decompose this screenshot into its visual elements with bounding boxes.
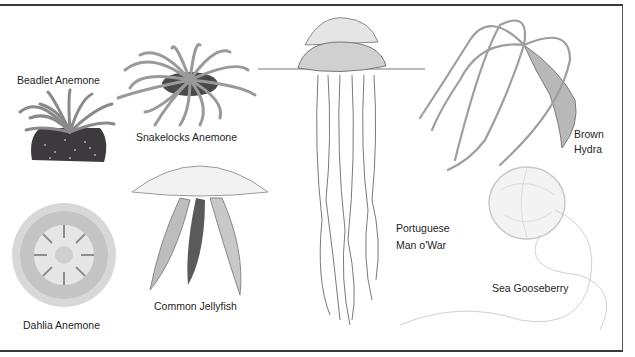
label-dahlia-anemone: Dahlia Anemone [23,318,100,332]
beadlet-anemone-illustration [20,90,114,162]
label-common-jellyfish: Common Jellyfish [154,299,237,313]
label-sea-gooseberry: Sea Gooseberry [492,281,568,295]
label-portuguese-man-o-war-line1: Portuguese [396,221,450,235]
label-brown-hydra-line1: Brown [574,127,604,141]
label-beadlet-anemone: Beadlet Anemone [17,73,100,87]
label-portuguese-man-o-war-line2: Man o'War [396,238,446,252]
label-snakelocks-anemone: Snakelocks Anemone [136,130,237,144]
illustrations [0,0,635,357]
snakelocks-anemone-illustration [118,44,255,125]
dahlia-anemone-illustration [12,203,116,307]
common-jellyfish-illustration [132,166,268,295]
label-brown-hydra-line2: Hydra [574,142,602,156]
brown-hydra-illustration [420,21,576,171]
portuguese-man-o-war-illustration [258,18,425,325]
